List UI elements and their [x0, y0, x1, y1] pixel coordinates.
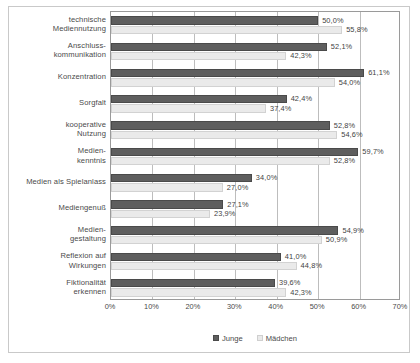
legend-item-maedchen[interactable]: Mädchen: [257, 334, 297, 343]
bar-junge: [111, 200, 223, 208]
bar-chart: technischeMediennutzungAnschluss-kommuni…: [0, 0, 420, 363]
bar-junge: [111, 121, 330, 129]
category-label: Reflexion aufWirkungen: [10, 251, 106, 269]
x-tick-label: 30%: [227, 302, 242, 311]
legend-label: Junge: [222, 334, 243, 343]
bar-maedchen: [111, 210, 210, 218]
x-tick-label: 50%: [310, 302, 325, 311]
category-label: Medien-gestaltung: [10, 225, 106, 243]
bar-maedchen: [111, 104, 266, 112]
category-label: kooperativeNutzung: [10, 120, 106, 138]
bar-value-label: 54,0%: [339, 78, 360, 87]
chart-legend: JungeMädchen: [110, 330, 400, 346]
bar-junge: [111, 174, 252, 182]
x-tick-label: 10%: [144, 302, 159, 311]
x-axis: 0%10%20%30%40%50%60%70%: [110, 302, 400, 316]
bar-value-label: 52,8%: [334, 156, 355, 165]
bar-junge: [111, 43, 327, 51]
bar-junge: [111, 226, 338, 234]
legend-label: Mädchen: [266, 334, 297, 343]
bar-value-label: 54,6%: [341, 130, 362, 139]
category-label: Mediengenuß: [10, 203, 106, 212]
bar-junge: [111, 16, 318, 24]
bar-value-label: 27,1%: [227, 200, 248, 209]
gridline: [360, 12, 361, 299]
bar-value-label: 42,3%: [290, 288, 311, 297]
x-tick-label: 70%: [393, 302, 408, 311]
bar-value-label: 37,4%: [270, 104, 291, 113]
category-label: Medien als Spielanlass: [10, 177, 106, 186]
bar-junge: [111, 95, 287, 103]
bar-value-label: 41,0%: [285, 252, 306, 261]
bar-maedchen: [111, 288, 286, 296]
x-tick-label: 40%: [268, 302, 283, 311]
x-tick-label: 60%: [351, 302, 366, 311]
bar-maedchen: [111, 157, 330, 165]
bar-value-label: 54,9%: [342, 226, 363, 235]
bar-junge: [111, 279, 275, 287]
bar-maedchen: [111, 262, 297, 270]
legend-swatch-icon: [257, 335, 263, 341]
category-label: Anschluss-kommunikation: [10, 41, 106, 59]
category-label: technischeMediennutzung: [10, 15, 106, 33]
bar-maedchen: [111, 52, 286, 60]
bar-value-label: 34,0%: [256, 173, 277, 182]
category-label: Medien-kenntnis: [10, 146, 106, 164]
bar-value-label: 39,6%: [279, 278, 300, 287]
legend-item-junge[interactable]: Junge: [213, 334, 243, 343]
bar-value-label: 52,8%: [334, 121, 355, 130]
bar-junge: [111, 148, 358, 156]
bar-value-label: 52,1%: [331, 42, 352, 51]
bar-maedchen: [111, 236, 322, 244]
category-label: Konzentration: [10, 72, 106, 81]
bar-junge: [111, 69, 364, 77]
bar-maedchen: [111, 183, 223, 191]
bar-value-label: 42,3%: [290, 51, 311, 60]
bar-value-label: 55,8%: [346, 25, 367, 34]
legend-swatch-icon: [213, 335, 219, 341]
bar-maedchen: [111, 78, 335, 86]
bar-value-label: 59,7%: [362, 147, 383, 156]
x-tick-label: 20%: [185, 302, 200, 311]
bar-value-label: 44,8%: [301, 261, 322, 270]
x-tick-label: 0%: [105, 302, 116, 311]
bar-value-label: 27,0%: [227, 183, 248, 192]
bar-value-label: 42,4%: [291, 94, 312, 103]
bar-value-label: 61,1%: [368, 68, 389, 77]
plot-area: 50,0%55,8%52,1%42,3%61,1%54,0%42,4%37,4%…: [110, 11, 400, 300]
category-label: Fiktionalitäterkennen: [10, 278, 106, 296]
bar-maedchen: [111, 26, 342, 34]
bar-value-label: 50,0%: [322, 16, 343, 25]
bar-maedchen: [111, 131, 337, 139]
category-label: Sorgfalt: [10, 98, 106, 107]
category-axis-labels: technischeMediennutzungAnschluss-kommuni…: [10, 11, 109, 300]
bar-value-label: 50,9%: [326, 235, 347, 244]
bar-junge: [111, 253, 281, 261]
bar-value-label: 23,9%: [214, 209, 235, 218]
